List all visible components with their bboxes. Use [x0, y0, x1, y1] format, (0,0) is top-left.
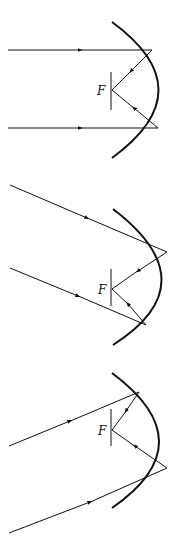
focus-label: F: [97, 424, 107, 438]
ray-2-incident: [9, 502, 90, 533]
diagram-2: F: [10, 185, 167, 345]
parabolic-mirror: [112, 22, 159, 158]
ray-2-reflected: [128, 304, 146, 325]
ray-2-reflected: [135, 446, 167, 468]
ray-1-reflected: [138, 252, 167, 271]
ray-1-incident: [9, 421, 70, 446]
diagram-1: F: [8, 22, 159, 158]
focus-label: F: [97, 283, 107, 297]
ray-2-incident: [10, 268, 78, 296]
focus-label: F: [96, 84, 106, 98]
parabolic-mirror: [113, 209, 162, 345]
diagram-3: F: [9, 373, 167, 533]
ray-1-incident: [10, 185, 87, 218]
mirror-diagrams: F F F: [0, 0, 189, 543]
